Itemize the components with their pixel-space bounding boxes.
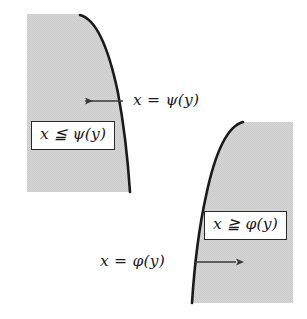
phi-curve-label: x = φ(y): [100, 254, 165, 270]
phi-inequality-label: x ≧ φ(y): [204, 211, 287, 240]
figure-canvas: x = ψ(y) x ≦ ψ(y) x ≧ φ(y) x = φ(y): [0, 0, 307, 319]
psi-inequality-label: x ≦ ψ(y): [31, 121, 115, 150]
psi-curve-label: x = ψ(y): [133, 93, 199, 109]
psi-shaded-region: [27, 14, 130, 192]
figure-svg: [0, 0, 307, 319]
